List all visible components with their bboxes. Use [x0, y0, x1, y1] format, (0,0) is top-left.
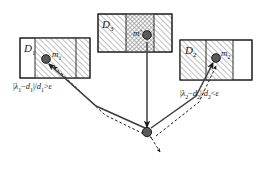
marker-dot-m1[interactable]	[42, 55, 51, 64]
marker-label-m-prime: m'	[133, 29, 141, 38]
diagram-canvas: D1 D3 D2 m1 m' m2 |λ1−d1|/d1>ε |λ2−d2|/d…	[0, 0, 271, 170]
box-label-d2: D2	[185, 45, 196, 59]
marker-dot-m2[interactable]	[212, 54, 221, 63]
formula-left-condition: |λ1−d1|/d1>ε	[13, 82, 52, 93]
marker-label-m2: m2	[221, 49, 231, 60]
outgoing-dashed-arrow[interactable]	[149, 134, 160, 152]
box-label-d1: D1	[24, 43, 35, 57]
marker-dot-m-prime[interactable]	[143, 31, 152, 40]
box-label-d3: D3	[102, 19, 113, 33]
convergence-node-dot[interactable]	[142, 127, 151, 136]
marker-label-m1: m1	[52, 50, 62, 61]
formula-right-condition: |λ2−d2|/d2<ε	[180, 89, 219, 100]
